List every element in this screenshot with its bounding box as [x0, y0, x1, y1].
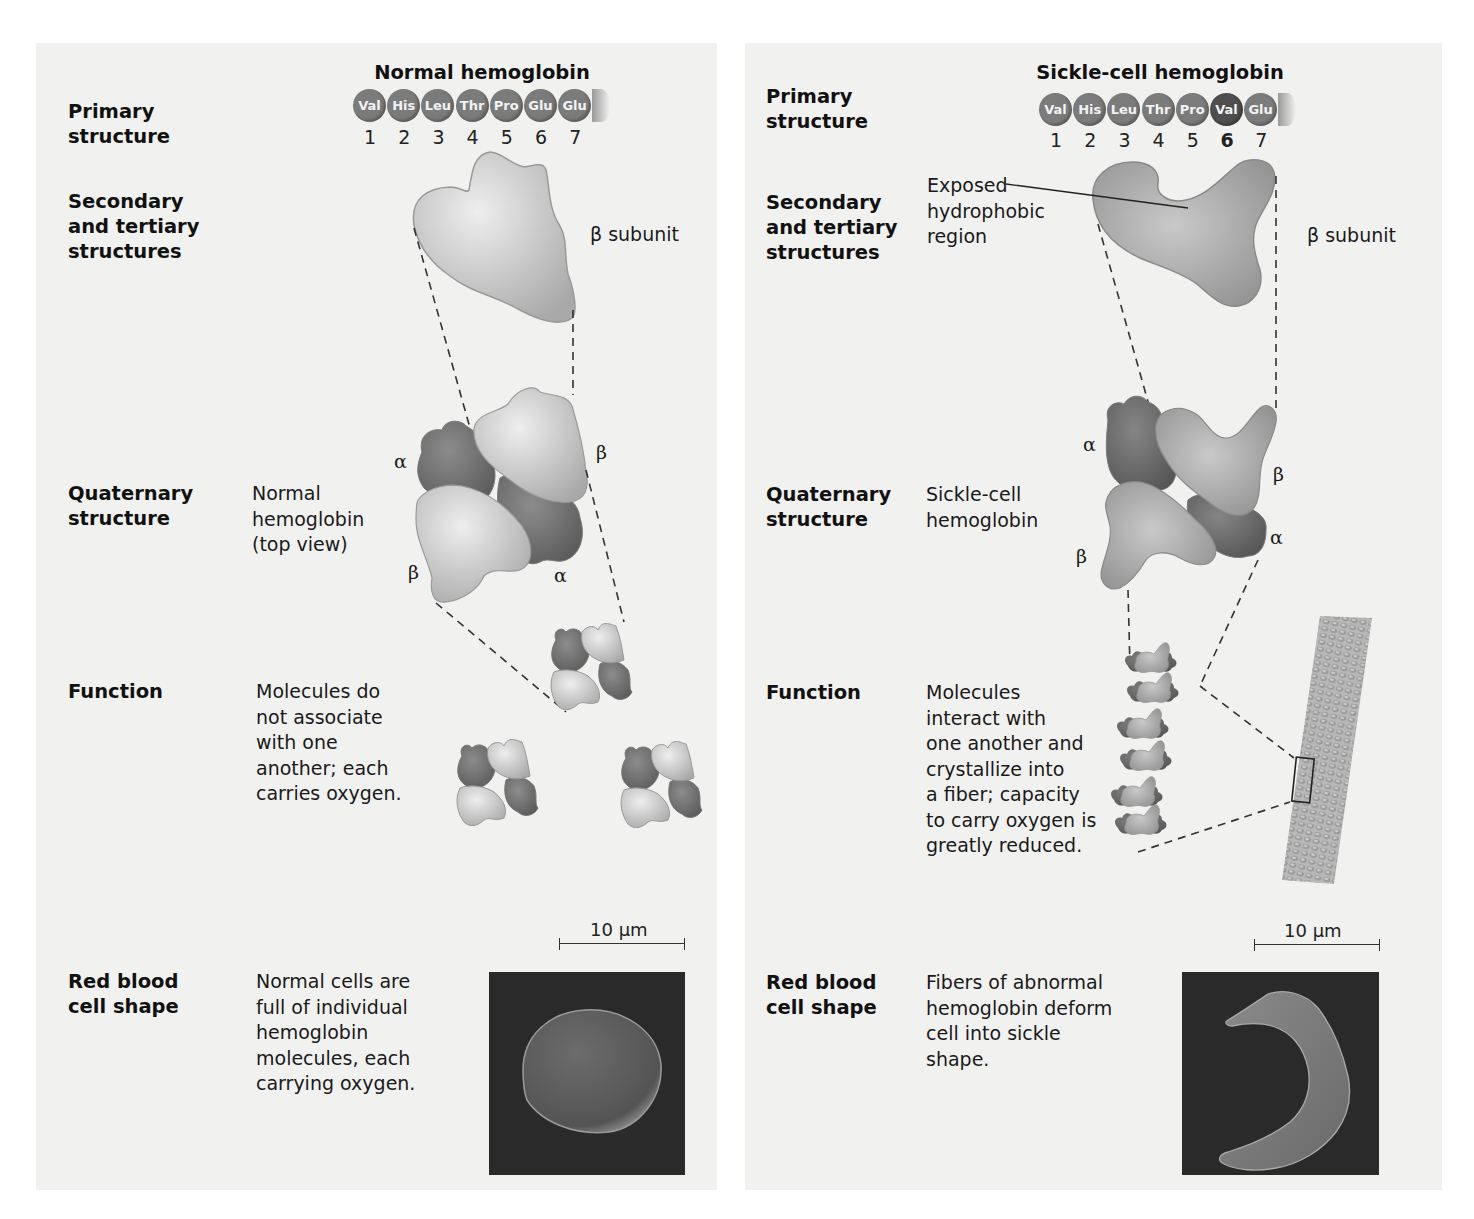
sickle-scale-label: 10 µm	[1284, 920, 1342, 941]
hemoglobin-fiber-chain	[1111, 643, 1178, 835]
sickle-rbc-micrograph	[1182, 972, 1379, 1175]
sickle-scale-bar	[1254, 939, 1380, 951]
sickle-fiber	[1282, 616, 1372, 884]
sickle-quaternary-tetramer	[1101, 396, 1276, 589]
sickle-beta-subunit-shape	[1093, 160, 1275, 306]
